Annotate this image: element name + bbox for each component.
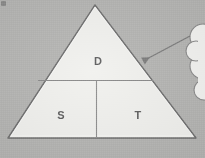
pyramid-label-d: D [94, 56, 102, 67]
pyramid-label-t: T [135, 110, 142, 121]
annotation-layer [0, 0, 205, 158]
pyramid-label-s: S [57, 110, 65, 121]
figure-canvas: D S T [0, 0, 205, 158]
callout-arrow[interactable] [143, 36, 190, 61]
